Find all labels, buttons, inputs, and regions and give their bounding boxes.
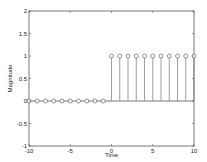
stem-marker <box>134 54 138 58</box>
stem-marker <box>118 54 122 58</box>
stem-marker <box>77 99 81 103</box>
stem-marker <box>159 54 163 58</box>
stem-marker <box>167 54 171 58</box>
stem-marker <box>151 54 155 58</box>
stem-marker <box>176 54 180 58</box>
y-tick-label: 0.5 <box>19 76 28 82</box>
y-tick-label: -1 <box>22 143 28 149</box>
x-tick-label: 5 <box>151 148 155 154</box>
stem-marker <box>68 99 72 103</box>
y-tick-label: 1.5 <box>19 31 28 37</box>
stem-marker <box>184 54 188 58</box>
stem-marker <box>85 99 89 103</box>
stem-marker <box>35 99 39 103</box>
y-tick-label: -0.5 <box>17 121 28 127</box>
stem-marker <box>143 54 147 58</box>
stem-marker <box>110 54 114 58</box>
stem-marker <box>126 54 130 58</box>
y-tick-label: 1 <box>24 53 28 59</box>
stem-marker <box>101 99 105 103</box>
stem-marker <box>44 99 48 103</box>
x-tick-label: -5 <box>68 148 74 154</box>
y-tick-label: 2 <box>24 8 28 14</box>
stem-marker <box>60 99 64 103</box>
stem-chart: -10-50510 -1-0.500.511.52 Time Magnitude <box>0 0 207 162</box>
stem-marker <box>93 99 97 103</box>
plot-area <box>27 11 196 146</box>
y-axis-ticks: -1-0.500.511.52 <box>17 8 194 149</box>
y-axis-label: Magnitude <box>7 64 13 93</box>
x-axis-label: Time <box>105 152 119 158</box>
stem-marker <box>52 99 56 103</box>
x-tick-label: 10 <box>191 148 198 154</box>
